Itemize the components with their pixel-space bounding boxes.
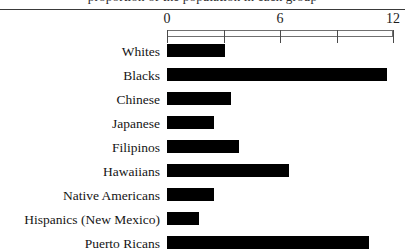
axis-tick [224,30,225,43]
bar-row: Hispanics (New Mexico) [0,212,405,236]
axis-tick [280,30,281,43]
bar-chart-figure: proportion of the population in each gro… [0,0,405,250]
bar-row: Japanese [0,116,405,140]
bar [167,140,239,153]
bar-category-label: Blacks [123,68,160,83]
bar-row: Filipinos [0,140,405,164]
bar-category-label: Whites [122,44,160,59]
bar-rows: WhitesBlacksChineseJapaneseFilipinosHawa… [0,44,405,250]
bar [167,236,369,249]
axis-tick-label: 0 [164,11,171,27]
axis-tick-label: 6 [277,11,284,27]
bar-category-label: Chinese [117,92,161,107]
axis-tick-label: 12 [386,11,400,27]
bar [167,164,289,177]
bar-row: Native Americans [0,188,405,212]
axis-tick [167,30,168,43]
bar-category-label: Hispanics (New Mexico) [24,212,160,227]
bar-category-label: Filipinos [112,140,160,155]
bar-category-label: Native Americans [63,188,160,203]
cropped-caption-text: proportion of the population in each gro… [0,0,405,5]
bar-category-label: Hawaiians [103,164,160,179]
bar-row: Blacks [0,68,405,92]
bar-category-label: Japanese [112,116,160,131]
bar [167,188,214,201]
bar-category-label: Puerto Ricans [85,236,160,250]
bar-row: Puerto Ricans [0,236,405,250]
bar [167,68,387,81]
bar-row: Whites [0,44,405,68]
bar-row: Hawaiians [0,164,405,188]
bar-row: Chinese [0,92,405,116]
axis-tick [393,30,394,43]
bar [167,92,231,105]
header-rule [0,9,405,10]
bar [167,212,199,225]
axis-tick [337,30,338,43]
bar [167,116,214,129]
bar [167,44,225,57]
